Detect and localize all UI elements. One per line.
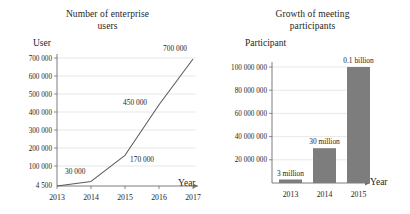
category-label-2014: 2014 bbox=[317, 190, 333, 199]
y-tick-label-20000000: 20 000 000 bbox=[235, 156, 268, 164]
x-tick-label-2013: 2013 bbox=[49, 193, 65, 202]
line-chart-y-tick-labels: 700 000 600 000 500 000 400 000 300 000 … bbox=[29, 55, 53, 191]
y-tick-label-40000000: 40 000 000 bbox=[235, 133, 268, 141]
y-tick-label-400000: 400 000 bbox=[29, 109, 53, 117]
data-label-30000: 30 000 bbox=[65, 167, 86, 176]
line-chart-gridlines bbox=[57, 58, 196, 166]
bar-chart-svg: 100 000 000 80 000 000 60 000 000 40 000… bbox=[215, 0, 410, 214]
line-chart-panel: Number of enterprise users User Year bbox=[0, 0, 215, 214]
x-tick-label-2017: 2017 bbox=[185, 193, 201, 202]
data-label-170000: 170 000 bbox=[130, 155, 154, 164]
x-tick-label-2016: 2016 bbox=[151, 193, 167, 202]
x-tick-label-2015: 2015 bbox=[117, 193, 133, 202]
data-label-450000: 450 000 bbox=[123, 98, 147, 107]
y-tick-label-200000: 200 000 bbox=[29, 145, 53, 153]
line-chart-x-axis-arrow bbox=[193, 184, 198, 189]
category-label-2013: 2013 bbox=[283, 190, 299, 199]
bar-label-2015: 0.1 billion bbox=[343, 56, 374, 65]
bar-label-2014: 30 million bbox=[309, 137, 340, 146]
line-chart-x-tick-labels: 2013 2014 2015 2016 2017 bbox=[49, 193, 201, 202]
y-tick-label-100000: 100 000 bbox=[29, 163, 53, 171]
y-tick-label-80000000: 80 000 000 bbox=[235, 87, 268, 95]
figure-container: Number of enterprise users User Year bbox=[0, 0, 410, 214]
y-tick-label-500000: 500 000 bbox=[29, 91, 53, 99]
bar-chart-category-labels: 2013 2014 2015 bbox=[283, 190, 367, 199]
y-tick-label-100000000: 100 000 000 bbox=[231, 64, 267, 72]
x-tick-label-2014: 2014 bbox=[83, 193, 99, 202]
y-tick-label-700000: 700 000 bbox=[29, 55, 53, 63]
bar-chart-y-ticks bbox=[269, 67, 272, 160]
y-tick-label-4500: 4 500 bbox=[36, 182, 53, 190]
category-label-2015: 2015 bbox=[351, 190, 367, 199]
y-tick-label-300000: 300 000 bbox=[29, 127, 53, 135]
bar-2013 bbox=[279, 180, 302, 184]
line-chart-data-labels: 30 000 170 000 450 000 700 000 bbox=[65, 44, 187, 176]
bar-chart-panel: Growth of meeting participants Participa… bbox=[215, 0, 410, 214]
y-tick-label-60000000: 60 000 000 bbox=[235, 110, 268, 118]
bar-label-2013: 3 million bbox=[277, 169, 304, 178]
bar-chart-y-tick-labels: 100 000 000 80 000 000 60 000 000 40 000… bbox=[231, 64, 267, 165]
bar-chart-bars bbox=[279, 67, 370, 183]
bar-2014 bbox=[313, 148, 336, 183]
data-label-700000: 700 000 bbox=[163, 44, 187, 53]
bar-2015 bbox=[347, 67, 370, 183]
line-chart-svg: 700 000 600 000 500 000 400 000 300 000 … bbox=[0, 0, 215, 214]
y-tick-label-600000: 600 000 bbox=[29, 73, 53, 81]
